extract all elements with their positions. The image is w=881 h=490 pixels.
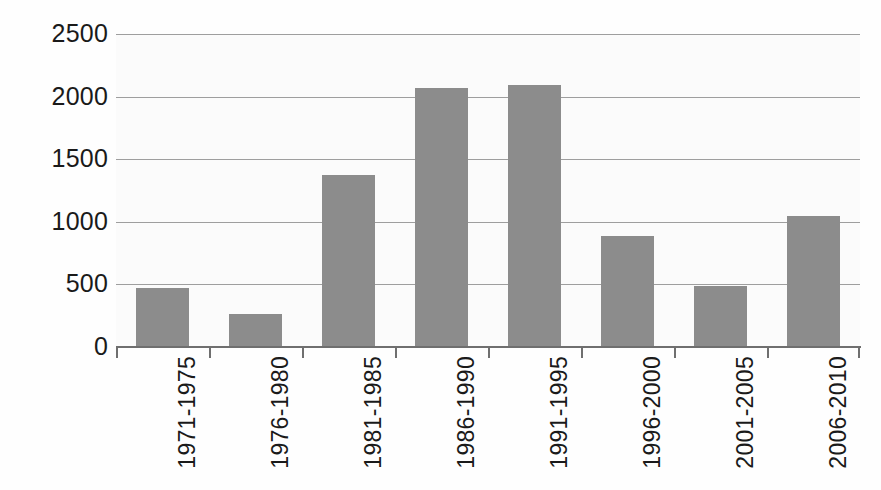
y-axis: 05001000150020002500 — [0, 0, 108, 490]
y-axis-tick-label: 1500 — [8, 146, 108, 171]
y-axis-tick-label: 2500 — [8, 21, 108, 46]
x-axis-category-label: 2006-2010 — [825, 356, 852, 486]
x-axis-category-label: 1991-1995 — [546, 356, 573, 486]
bar — [601, 236, 653, 347]
bar — [508, 85, 560, 347]
y-axis-tick-label: 1000 — [8, 209, 108, 234]
bar — [322, 175, 374, 347]
x-axis-category-label: 1976-1980 — [267, 356, 294, 486]
x-axis-category-label: 1981-1985 — [360, 356, 387, 486]
x-axis-category-label: 1996-2000 — [639, 356, 666, 486]
bar — [136, 288, 188, 347]
bars-group — [116, 34, 860, 347]
x-axis-category-label: 2001-2005 — [732, 356, 759, 486]
bar — [415, 88, 467, 347]
bar-chart: 05001000150020002500 1971-19751976-19801… — [0, 0, 881, 490]
bar — [787, 216, 839, 347]
bar — [694, 286, 746, 347]
x-axis-category-label: 1971-1975 — [174, 356, 201, 486]
plot-area — [116, 34, 860, 347]
x-axis-category-label: 1986-1990 — [453, 356, 480, 486]
y-axis-tick-label: 500 — [8, 271, 108, 296]
y-axis-tick-label: 0 — [8, 334, 108, 359]
bar — [229, 314, 281, 347]
x-axis-tick-labels: 1971-19751976-19801981-19851986-19901991… — [116, 356, 861, 490]
y-axis-tick-label: 2000 — [8, 84, 108, 109]
